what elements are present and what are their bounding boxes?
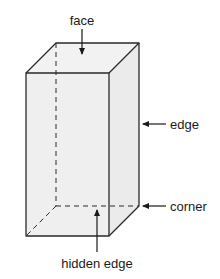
corner-label: corner xyxy=(170,199,208,214)
right-face xyxy=(109,43,139,236)
prism-diagram: face edge corner hidden edge xyxy=(0,0,220,279)
face-label: face xyxy=(70,13,95,28)
edge-label: edge xyxy=(170,117,199,132)
prism-faces xyxy=(26,43,139,236)
hidden-edge-label: hidden edge xyxy=(61,256,133,271)
